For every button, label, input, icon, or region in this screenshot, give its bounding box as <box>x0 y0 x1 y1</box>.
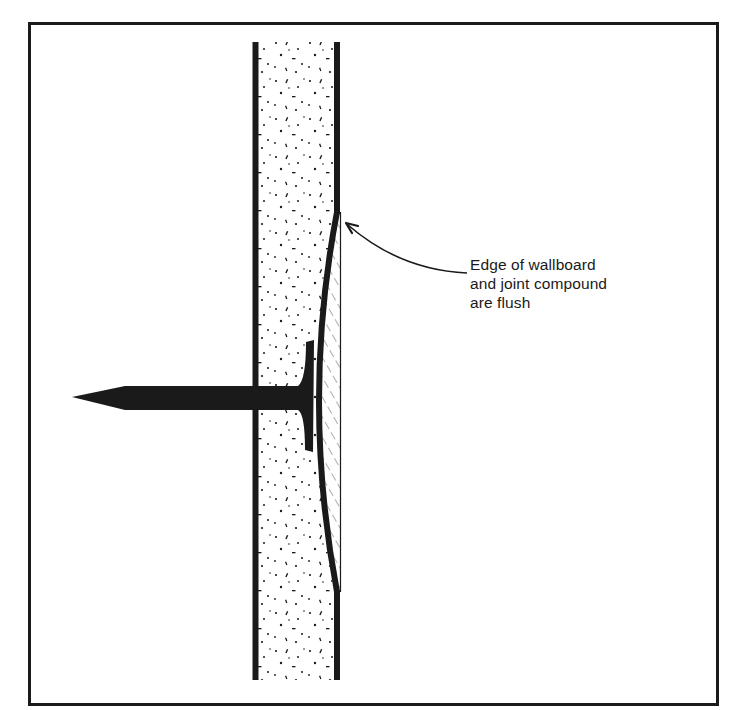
figure-frame <box>30 24 718 705</box>
callout-leader <box>346 223 467 273</box>
callout-label: Edge of wallboard and joint compound are… <box>470 255 607 312</box>
callout-line-1: Edge of wallboard <box>470 255 607 274</box>
callout-line-2: and joint compound <box>470 274 607 293</box>
diagram-canvas <box>0 0 735 710</box>
callout-line-3: are flush <box>470 293 607 312</box>
